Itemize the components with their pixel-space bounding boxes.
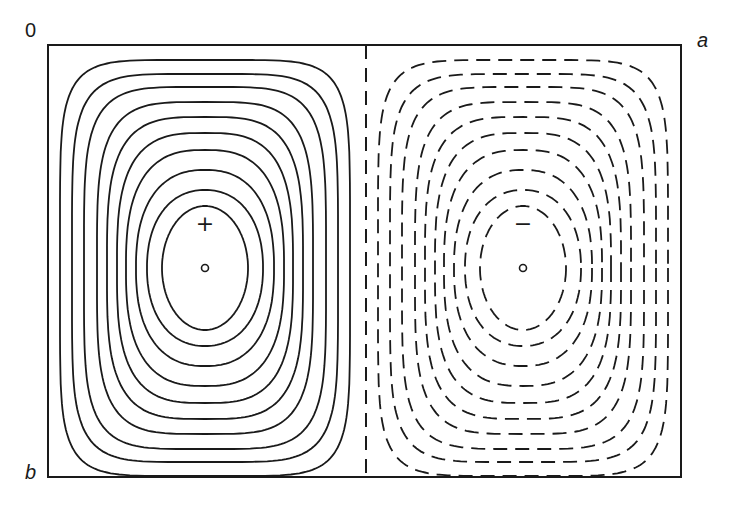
x-extent-label-a: a: [697, 30, 708, 50]
negative-cell-streamline-1: [378, 60, 668, 476]
negative-cell-streamline-8: [454, 170, 592, 366]
negative-cell-contours: [378, 60, 668, 476]
positive-cell-contours: [60, 60, 350, 476]
origin-label: 0: [25, 20, 36, 40]
contour-plot: +−: [0, 0, 733, 511]
convection-cells-diagram: +− 0 a b: [0, 0, 733, 511]
positive-cell-streamline-8: [136, 170, 274, 366]
positive-cell-streamline-1: [60, 60, 350, 476]
cell-markers: +−: [196, 211, 532, 272]
negative-cell-streamline-4: [415, 102, 631, 434]
positive-cell-sign-plus-icon: +: [196, 211, 214, 236]
box-frame: [48, 45, 681, 477]
negative-cell-streamline-6: [435, 133, 611, 403]
negative-cell-streamline-3: [402, 87, 644, 449]
positive-cell-streamline-6: [117, 133, 293, 403]
positive-cell-streamline-4: [97, 102, 313, 434]
negative-cell-streamline-7: [444, 150, 602, 386]
negative-cell-center-circle-icon: [520, 265, 527, 272]
negative-cell-sign-minus-icon: −: [514, 211, 532, 236]
y-extent-label-b: b: [25, 462, 36, 482]
positive-cell-streamline-3: [84, 87, 326, 449]
positive-cell-streamline-7: [126, 150, 284, 386]
positive-cell-center-circle-icon: [202, 265, 209, 272]
